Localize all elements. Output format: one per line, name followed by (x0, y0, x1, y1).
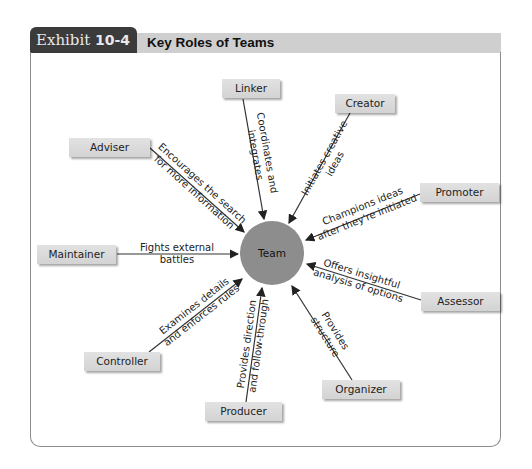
role-box-linker: Linker (222, 79, 280, 98)
role-box-promoter: Promoter (420, 183, 499, 202)
role-box-maintainer: Maintainer (37, 245, 116, 264)
role-box-assessor: Assessor (421, 292, 500, 311)
team-node: Team (240, 221, 304, 285)
role-box-adviser: Adviser (69, 138, 150, 157)
role-box-producer: Producer (205, 402, 282, 421)
role-box-organizer: Organizer (322, 380, 400, 399)
role-box-controller: Controller (84, 352, 160, 371)
label-maintainer: Fights externalbattles (127, 242, 227, 266)
